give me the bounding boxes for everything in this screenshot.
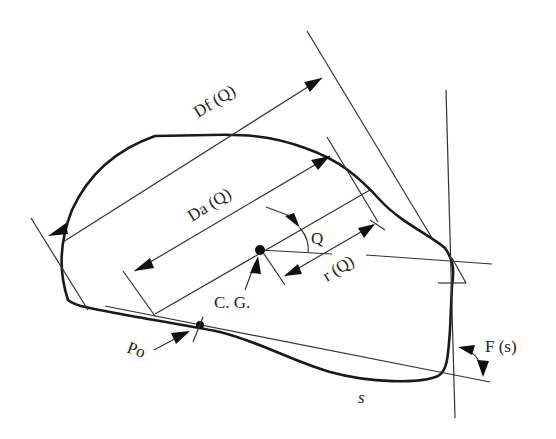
angle-q-leader bbox=[266, 207, 290, 216]
angle-q-arc bbox=[300, 228, 308, 253]
angle-reference-line bbox=[260, 250, 332, 254]
label-r: r (Q) bbox=[319, 252, 357, 286]
da-support-line-left bbox=[123, 271, 155, 316]
label-cg: C. G. bbox=[214, 293, 250, 312]
r-arrow-end-icon bbox=[358, 224, 375, 238]
label-q: Q bbox=[311, 229, 323, 248]
centroid-point bbox=[255, 245, 265, 255]
df-arrow-end-icon bbox=[304, 78, 322, 92]
particle-shape-diagram: Df (Q) Da (Q) Q r (Q) C. G. Po s F (s) bbox=[0, 0, 556, 439]
label-da: Da (Q) bbox=[184, 184, 234, 225]
df-arrow-start-icon bbox=[48, 223, 68, 236]
label-df: Df (Q) bbox=[190, 81, 239, 121]
fs-arrow-bottom-icon bbox=[477, 360, 489, 377]
da-arrow-end-icon bbox=[311, 156, 330, 170]
r-arrow-start-icon bbox=[284, 264, 302, 276]
label-s: s bbox=[358, 388, 365, 407]
perimeter-tangent-line bbox=[105, 306, 490, 382]
horizontal-reference-line bbox=[366, 255, 492, 264]
label-fs: F (s) bbox=[485, 337, 517, 356]
po-arrow-icon bbox=[171, 331, 190, 344]
da-arrow-start-icon bbox=[134, 258, 154, 271]
cg-tick-line bbox=[262, 251, 285, 285]
da-support-line-right bbox=[327, 137, 378, 222]
da-dimension-line bbox=[135, 156, 330, 271]
label-po: Po bbox=[125, 338, 148, 362]
